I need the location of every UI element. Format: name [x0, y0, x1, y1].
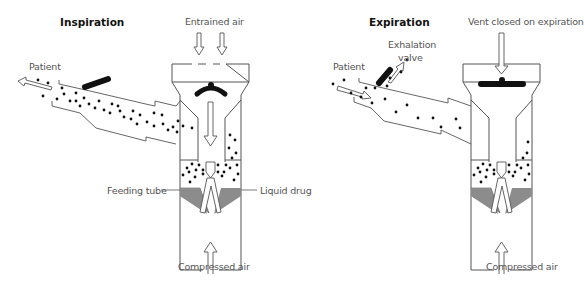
inspiration-title: Inspiration	[60, 17, 124, 28]
entrained-air-label: Entrained air	[185, 17, 244, 27]
exhalation-valve-label-line2: valve	[398, 53, 423, 63]
exhalation-valve-label-line1: Exhalation	[388, 40, 436, 50]
exhalation-valve-icon	[85, 79, 108, 87]
baffle-icon	[197, 88, 225, 94]
liquid-drug-label: Liquid drug	[260, 186, 311, 196]
expiration-title: Expiration	[369, 17, 430, 28]
entrained-air-arrow-icon	[194, 33, 204, 55]
patient-label-expiration: Patient	[333, 62, 365, 72]
vent-closed-label: Vent closed on expiration	[468, 17, 584, 27]
vent-down-arrow-icon	[495, 33, 508, 74]
patient-label-inspiration: Patient	[29, 62, 61, 72]
entrained-air-arrow-icon	[217, 33, 227, 55]
feeding-tube-label: Feeding tube	[107, 186, 167, 196]
airflow-down-arrow-icon	[204, 102, 217, 146]
compressed-air-label-inspiration: Compressed air	[178, 262, 250, 272]
nebulizer-diagram	[0, 0, 584, 285]
compressed-air-label-expiration: Compressed air	[486, 262, 558, 272]
